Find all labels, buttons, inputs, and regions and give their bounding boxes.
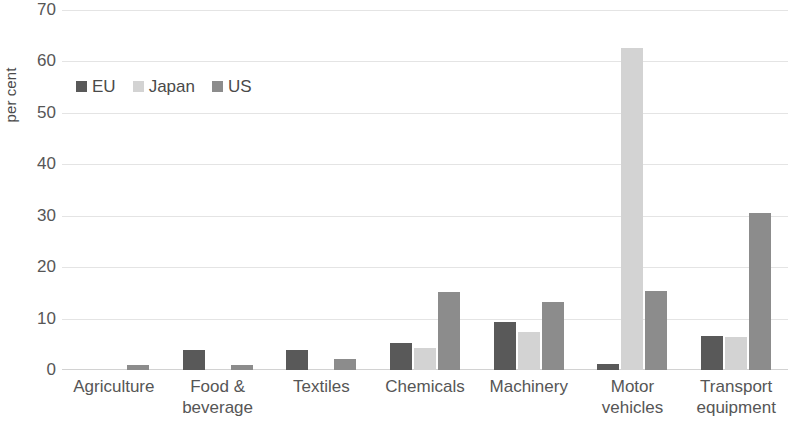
legend-swatch-icon bbox=[133, 81, 144, 92]
bar-slot bbox=[310, 10, 332, 370]
bar-japan[interactable] bbox=[621, 48, 643, 370]
y-tick-label: 60 bbox=[10, 52, 56, 69]
bar-japan[interactable] bbox=[518, 332, 540, 370]
bar-group bbox=[373, 10, 477, 370]
bar-slot bbox=[127, 10, 149, 370]
legend-label: US bbox=[228, 78, 252, 95]
bar-japan[interactable] bbox=[414, 348, 436, 370]
y-axis-tick-labels: 706050403020100 bbox=[0, 0, 56, 438]
legend-label: EU bbox=[92, 78, 116, 95]
y-tick-label: 10 bbox=[10, 310, 56, 327]
bar-us[interactable] bbox=[334, 359, 356, 370]
legend-swatch-icon bbox=[212, 81, 223, 92]
bar-eu[interactable] bbox=[286, 350, 308, 370]
bar-slot bbox=[103, 10, 125, 370]
legend-label: Japan bbox=[149, 78, 195, 95]
bar-slot bbox=[438, 10, 460, 370]
bar-eu[interactable] bbox=[183, 350, 205, 370]
bar-slot bbox=[518, 10, 540, 370]
bar-us[interactable] bbox=[749, 213, 771, 370]
y-tick-label: 50 bbox=[10, 104, 56, 121]
bar-slot bbox=[621, 10, 643, 370]
bar-slot bbox=[231, 10, 253, 370]
bar-group bbox=[269, 10, 373, 370]
bar-chart: per cent 706050403020100 AgricultureFood… bbox=[0, 0, 794, 438]
plot-area bbox=[62, 10, 788, 370]
bar-us[interactable] bbox=[438, 292, 460, 370]
bar-group bbox=[477, 10, 581, 370]
bar-japan[interactable] bbox=[725, 337, 747, 370]
legend-item-japan[interactable]: Japan bbox=[133, 78, 195, 95]
bar-slot bbox=[725, 10, 747, 370]
x-tick-label: Machinery bbox=[477, 376, 581, 419]
bar-slot bbox=[749, 10, 771, 370]
bar-us[interactable] bbox=[645, 291, 667, 370]
bar-groups bbox=[62, 10, 788, 370]
bar-group bbox=[581, 10, 685, 370]
x-tick-label: Motorvehicles bbox=[581, 376, 685, 419]
x-tick-label: Transportequipment bbox=[684, 376, 788, 419]
bar-slot bbox=[334, 10, 356, 370]
bar-slot bbox=[645, 10, 667, 370]
y-tick-label: 70 bbox=[10, 1, 56, 18]
bar-slot bbox=[414, 10, 436, 370]
bar-us[interactable] bbox=[127, 365, 149, 370]
legend-swatch-icon bbox=[76, 81, 87, 92]
x-tick-label: Textiles bbox=[269, 376, 373, 419]
chart-legend: EUJapanUS bbox=[76, 78, 252, 95]
bar-group bbox=[684, 10, 788, 370]
bar-eu[interactable] bbox=[597, 364, 619, 370]
x-tick-label: Agriculture bbox=[62, 376, 166, 419]
bar-eu[interactable] bbox=[701, 336, 723, 370]
bar-us[interactable] bbox=[231, 365, 253, 370]
x-axis-tick-labels: AgricultureFood &beverageTextilesChemica… bbox=[62, 376, 788, 419]
bar-slot bbox=[494, 10, 516, 370]
bar-slot bbox=[286, 10, 308, 370]
y-tick-label: 30 bbox=[10, 207, 56, 224]
bar-slot bbox=[183, 10, 205, 370]
bar-group bbox=[166, 10, 270, 370]
bar-slot bbox=[390, 10, 412, 370]
bar-us[interactable] bbox=[542, 302, 564, 370]
bar-group bbox=[62, 10, 166, 370]
legend-item-us[interactable]: US bbox=[212, 78, 252, 95]
bar-slot bbox=[701, 10, 723, 370]
bar-eu[interactable] bbox=[390, 343, 412, 370]
bar-eu[interactable] bbox=[494, 322, 516, 370]
x-tick-label: Chemicals bbox=[373, 376, 477, 419]
y-tick-label: 40 bbox=[10, 155, 56, 172]
bar-slot bbox=[207, 10, 229, 370]
x-tick-label: Food &beverage bbox=[166, 376, 270, 419]
y-tick-label: 0 bbox=[10, 361, 56, 378]
y-tick-label: 20 bbox=[10, 258, 56, 275]
bar-slot bbox=[79, 10, 101, 370]
bar-slot bbox=[542, 10, 564, 370]
bar-slot bbox=[597, 10, 619, 370]
legend-item-eu[interactable]: EU bbox=[76, 78, 116, 95]
